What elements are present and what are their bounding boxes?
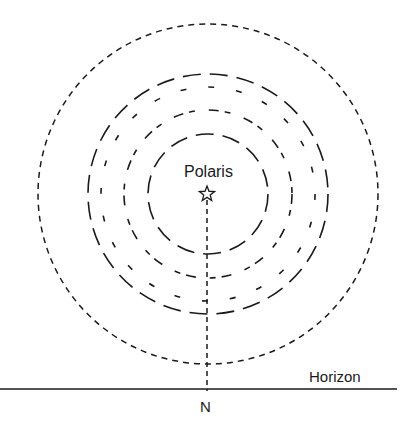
polaris-label: Polaris: [184, 163, 233, 181]
horizon-label: Horizon: [309, 368, 361, 385]
polaris-star-icon: [199, 186, 214, 200]
north-direction-label: N: [200, 398, 211, 415]
